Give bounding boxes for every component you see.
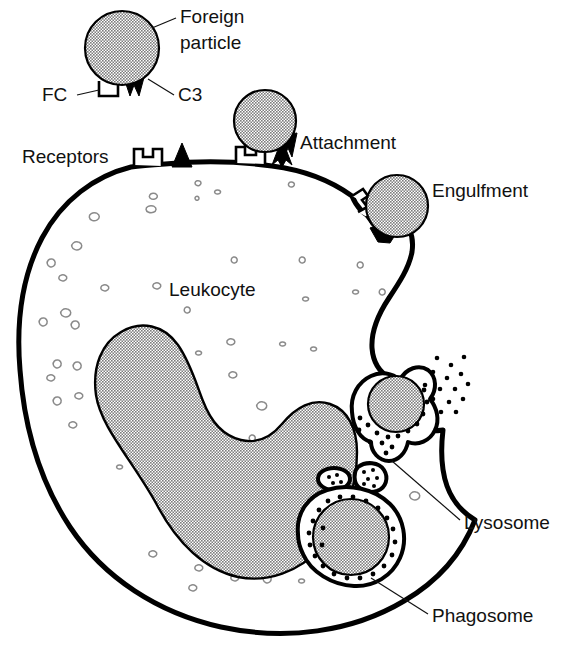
phagocytosis-diagram: Foreign particle FC C3 Receptors Attachm… (0, 0, 579, 649)
leader-foreign-particle (152, 18, 176, 28)
phagosome-particle-body (313, 499, 389, 575)
fc-receptor-free (134, 149, 162, 166)
label-foreign-particle-line2: particle (180, 32, 241, 53)
label-leukocyte: Leukocyte (169, 279, 256, 300)
leader-fc (77, 90, 99, 95)
membrane-receptors (134, 143, 192, 167)
label-c3: C3 (178, 84, 202, 105)
label-attachment: Attachment (300, 132, 397, 153)
c3-receptor-free (172, 143, 192, 167)
attachment-stage (234, 90, 297, 167)
label-engulfment: Engulfment (432, 180, 529, 201)
label-fc: FC (42, 84, 67, 105)
phagosome (298, 487, 404, 586)
engulfed-particle-body (366, 175, 428, 237)
label-foreign-particle-line1: Foreign (180, 6, 244, 27)
attached-particle-body (234, 90, 296, 152)
phagocytosis-figure: Foreign particle FC C3 Receptors Attachm… (0, 0, 579, 649)
leader-c3 (148, 79, 174, 95)
free-foreign-particle (85, 11, 159, 96)
foreign-particle-body (85, 11, 159, 85)
label-lysosome: Lysosome (464, 512, 550, 533)
label-phagosome: Phagosome (432, 605, 533, 626)
label-receptors: Receptors (22, 146, 109, 167)
